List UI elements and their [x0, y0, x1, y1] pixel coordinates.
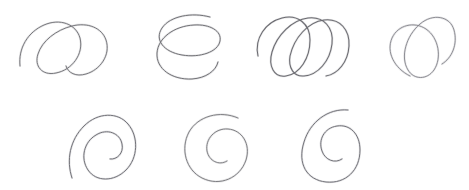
sketch-sheet — [0, 0, 469, 190]
spiral-stroke-halo — [20, 22, 107, 75]
spiral-stroke-halo — [157, 15, 220, 79]
spiral-stroke-halo — [257, 17, 349, 76]
spiral-drawing-6 — [180, 108, 254, 180]
spiral-stroke — [302, 110, 360, 182]
spiral-drawing-2 — [148, 10, 230, 80]
spiral-figure-6 — [180, 108, 254, 180]
spiral-figure-5 — [66, 106, 140, 182]
spiral-stroke-halo — [69, 115, 135, 179]
spiral-figure-2 — [148, 10, 230, 80]
spiral-drawing-4 — [382, 10, 460, 82]
spiral-drawing-1 — [14, 8, 122, 80]
spiral-figure-1 — [14, 8, 122, 80]
spiral-figure-3 — [250, 10, 356, 82]
spiral-figure-4 — [382, 10, 460, 82]
spiral-drawing-3 — [250, 10, 356, 82]
spiral-stroke-halo — [302, 110, 360, 182]
spiral-drawing-5 — [66, 106, 140, 182]
spiral-drawing-7 — [294, 104, 372, 184]
spiral-figure-7 — [294, 104, 372, 184]
